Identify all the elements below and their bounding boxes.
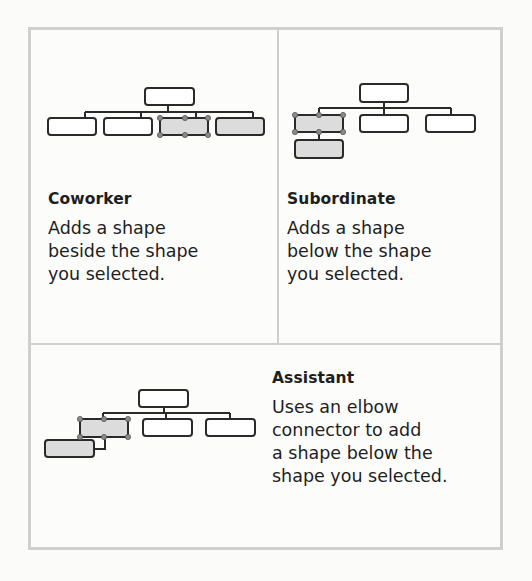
subordinate-diagram-icon [297, 78, 497, 178]
subordinate-panel: Subordinate Adds a shape below the shape… [287, 190, 499, 286]
coworker-description: Adds a shape beside the shape you select… [48, 217, 273, 286]
subordinate-description: Adds a shape below the shape you selecte… [287, 217, 499, 286]
assistant-title: Assistant [272, 369, 502, 387]
coworker-title: Coworker [48, 190, 273, 208]
vertical-divider [277, 30, 279, 344]
horizontal-divider [31, 343, 500, 345]
subordinate-title: Subordinate [287, 190, 499, 208]
coworker-panel: Coworker Adds a shape beside the shape y… [48, 190, 273, 286]
assistant-description: Uses an elbow connector to add a shape b… [272, 396, 502, 488]
assistant-panel: Assistant Uses an elbow connector to add… [272, 369, 502, 488]
org-chart-options-figure: Coworker Adds a shape beside the shape y… [28, 27, 503, 550]
assistant-diagram-icon [45, 387, 275, 477]
coworker-diagram-icon [45, 85, 285, 165]
